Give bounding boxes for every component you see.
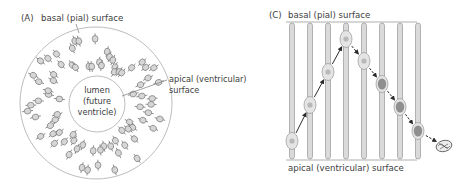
panel-c-basal-label: basal (pial) surface: [288, 10, 370, 20]
cell: [84, 164, 91, 176]
cell: [59, 136, 70, 148]
migration-arrow: [314, 80, 323, 97]
cell: [33, 98, 44, 104]
apical-leader-line: [122, 80, 167, 96]
cell: [111, 164, 120, 176]
panel-a: (A) basal (pial) surface lumen (future v…: [20, 13, 247, 179]
cell: [137, 116, 149, 125]
cell: [22, 108, 34, 115]
lumen-label-line3: ventricle): [78, 107, 117, 117]
cell: [154, 115, 166, 123]
dividing-cell: [435, 139, 453, 154]
lumen-label-line2: (future: [83, 96, 111, 106]
cell: [25, 102, 36, 108]
cell: [114, 147, 124, 159]
cell: [136, 92, 148, 99]
radial-column: [394, 23, 406, 159]
cell: [128, 133, 140, 145]
cell: [134, 103, 145, 110]
migration-arrow: [388, 91, 395, 100]
cell: [147, 123, 159, 133]
migration-arrow: [352, 46, 359, 54]
cell: [51, 110, 63, 119]
cell: [142, 73, 154, 83]
panel-c-label: (C): [269, 10, 282, 20]
cell: [88, 61, 95, 73]
migration-arrow: [405, 114, 412, 124]
cell: [51, 48, 62, 60]
radial-column: [322, 23, 334, 159]
cell: [90, 145, 96, 156]
cell: [55, 58, 67, 70]
apical-label-line2: surface: [169, 85, 199, 95]
cell: [148, 62, 160, 73]
panel-c-apical-label: apical (ventricular) surface: [288, 163, 404, 173]
radial-column: [286, 23, 298, 159]
migration-arrow: [370, 68, 377, 77]
cell: [75, 35, 84, 47]
cell: [29, 113, 41, 121]
cell: [126, 62, 138, 74]
cell: [152, 78, 164, 87]
cell: [64, 148, 74, 160]
lumen-label-line1: lumen: [84, 85, 110, 95]
diagram-canvas: (A) basal (pial) surface lumen (future v…: [0, 0, 471, 186]
radial-column: [358, 23, 370, 159]
cell: [34, 131, 46, 142]
radial-column: [376, 23, 388, 159]
cell: [146, 101, 157, 107]
cell: [119, 139, 130, 151]
apical-label-line1: apical (ventricular): [169, 74, 247, 84]
radial-column: [304, 23, 316, 159]
cell: [131, 152, 142, 164]
cell: [95, 160, 101, 171]
cell: [146, 95, 157, 102]
migration-arrow: [332, 47, 341, 64]
panel-c: (C) basal (pial) surface apical (ventric…: [269, 10, 453, 173]
panel-a-basal-label: basal (pial) surface: [41, 13, 123, 23]
radial-column: [340, 23, 352, 159]
basal-leader-line: [76, 24, 79, 33]
cell: [142, 109, 154, 117]
radial-glia-columns: [286, 23, 424, 159]
cell: [54, 96, 66, 103]
panel-a-label: (A): [21, 13, 34, 23]
cell: [92, 33, 98, 44]
cell: [48, 137, 60, 149]
migration-arrow: [426, 136, 436, 142]
radial-column: [412, 23, 424, 159]
migration-arrow: [296, 113, 306, 133]
